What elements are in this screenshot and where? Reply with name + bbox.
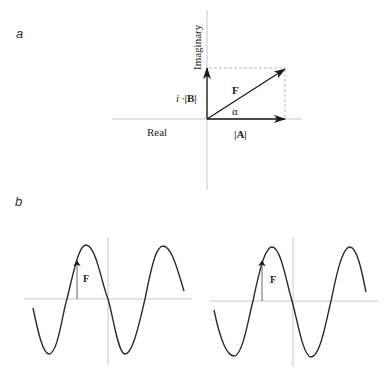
imaginary-axis-label: Imaginary [191, 24, 203, 70]
figure-canvas: a Imaginary Real F α i ·|B| |A| b F [0, 0, 388, 375]
panel-a: a Imaginary Real F α i ·|B| |A| [16, 10, 302, 190]
panel-b: b F F [15, 194, 378, 367]
panel-a-label: a [16, 26, 23, 41]
resultant-vector-f [207, 69, 285, 119]
right-wave-plot: F [210, 237, 378, 367]
real-axis-label: Real [147, 126, 167, 138]
left-wave-plot: F [24, 237, 192, 365]
imaginary-component-label: i ·|B| [176, 92, 197, 104]
b-magnitude: |B| [185, 92, 197, 104]
left-wave-f-label: F [83, 273, 89, 284]
resultant-vector-label: F [232, 84, 239, 96]
angle-alpha-label: α [232, 105, 238, 117]
imaginary-unit-prefix: i · [176, 92, 185, 104]
real-component-label: |A| [234, 128, 247, 140]
panel-b-label: b [15, 194, 22, 209]
right-sine-wave [214, 247, 366, 357]
right-wave-f-label: F [270, 274, 276, 285]
